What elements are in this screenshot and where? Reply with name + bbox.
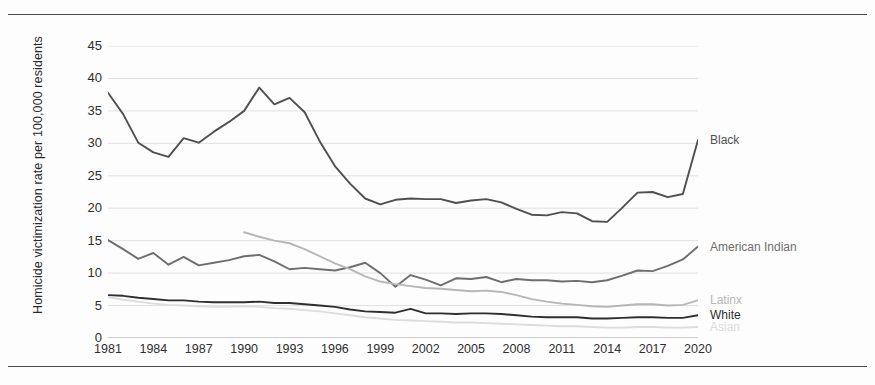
x-tick-label: 1996 — [321, 342, 349, 356]
figure-canvas: Homicide victimization rate per 100,000 … — [0, 0, 875, 385]
y-tick-label: 10 — [62, 266, 102, 279]
x-tick-label: 2005 — [457, 342, 485, 356]
legend-label-black: Black — [710, 133, 739, 147]
y-tick-label: 45 — [62, 39, 102, 52]
x-tick-label: 1999 — [366, 342, 394, 356]
y-tick-label: 15 — [62, 234, 102, 247]
y-tick-label: 35 — [62, 104, 102, 117]
x-axis-tick-labels: 1981198419871990199319961999200220052008… — [108, 340, 698, 362]
y-tick-label: 5 — [62, 299, 102, 312]
legend-label-latinx: Latinx — [710, 293, 742, 307]
series-line-black — [108, 88, 698, 222]
bottom-divider-rule — [8, 366, 867, 367]
x-tick-label: 1987 — [185, 342, 213, 356]
x-tick-label: 2011 — [548, 342, 575, 356]
x-tick-label: 1993 — [276, 342, 304, 356]
y-tick-label: 20 — [62, 201, 102, 214]
series-line-latinx — [244, 232, 698, 307]
legend-label-american-indian: American Indian — [710, 240, 797, 254]
top-divider-rule — [8, 14, 867, 15]
y-tick-label: 30 — [62, 136, 102, 149]
line-chart-svg — [108, 46, 698, 338]
plot-area — [108, 46, 698, 338]
x-tick-label: 2020 — [684, 342, 712, 356]
x-tick-label: 2002 — [412, 342, 440, 356]
legend-label-asian: Asian — [710, 320, 740, 334]
y-tick-label: 40 — [62, 71, 102, 84]
x-tick-label: 2014 — [593, 342, 621, 356]
y-axis-tick-labels: 051015202530354045 — [58, 46, 102, 338]
y-axis-label: Homicide victimization rate per 100,000 … — [31, 25, 45, 325]
x-tick-label: 1984 — [139, 342, 167, 356]
x-tick-label: 1990 — [230, 342, 258, 356]
y-tick-label: 25 — [62, 169, 102, 182]
x-tick-label: 2008 — [503, 342, 531, 356]
x-tick-label: 1981 — [94, 342, 122, 356]
series-line-american-indian — [108, 240, 698, 287]
x-tick-label: 2017 — [639, 342, 667, 356]
series-legend: BlackAmerican IndianLatinxWhiteAsian — [700, 46, 870, 338]
